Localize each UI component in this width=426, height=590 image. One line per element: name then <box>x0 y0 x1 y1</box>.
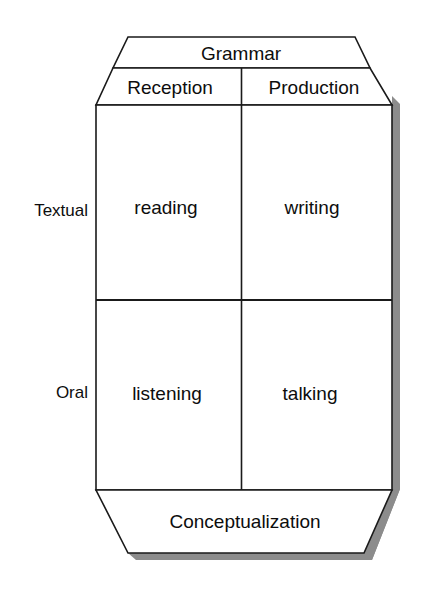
cell-textual-production: writing <box>285 198 340 217</box>
row-header-oral: Oral <box>56 384 88 401</box>
column-header-reception: Reception <box>127 78 213 97</box>
conceptualization-band-label: Conceptualization <box>169 512 320 531</box>
diagram-canvas <box>0 0 426 590</box>
grammar-conceptualization-diagram: Grammar Reception Production Textual Ora… <box>0 0 426 590</box>
grammar-band-label: Grammar <box>201 44 281 63</box>
column-header-production: Production <box>269 78 360 97</box>
matrix-body-shape <box>96 105 392 490</box>
cell-oral-reception: listening <box>132 384 202 403</box>
row-header-textual: Textual <box>34 202 88 219</box>
cell-textual-reception: reading <box>134 198 197 217</box>
cell-oral-production: talking <box>283 384 338 403</box>
